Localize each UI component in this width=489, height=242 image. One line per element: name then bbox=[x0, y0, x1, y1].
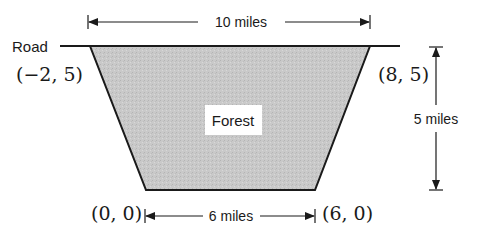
vertex-bottom-left-label: (0, 0) bbox=[91, 202, 142, 224]
vertex-top-left-label: (−2, 5) bbox=[16, 63, 83, 85]
top-width-dimension: 10 miles bbox=[88, 14, 370, 30]
top-width-label: 10 miles bbox=[215, 14, 267, 30]
vertex-bottom-right-label: (6, 0) bbox=[322, 202, 373, 224]
bottom-width-dimension: 6 miles bbox=[145, 208, 315, 224]
vertex-top-right-label: (8, 5) bbox=[378, 63, 429, 85]
height-label: 5 miles bbox=[414, 111, 458, 127]
forest-trapezoid-diagram: 10 miles 6 miles 5 miles Road Forest (−2… bbox=[0, 0, 489, 242]
forest-label: Forest bbox=[212, 112, 255, 129]
road-label: Road bbox=[12, 38, 48, 55]
bottom-width-label: 6 miles bbox=[209, 208, 253, 224]
